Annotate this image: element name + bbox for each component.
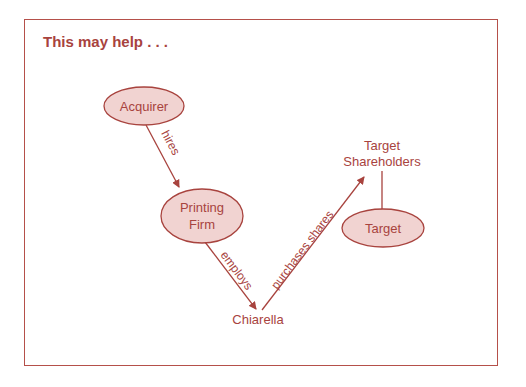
node-target: Target bbox=[342, 209, 424, 247]
node-printing-firm-label-2: Firm bbox=[189, 217, 215, 232]
node-acquirer-label: Acquirer bbox=[120, 99, 169, 114]
node-acquirer: Acquirer bbox=[104, 87, 184, 125]
node-printing-firm: Printing Firm bbox=[161, 189, 243, 243]
node-target-label: Target bbox=[365, 221, 402, 236]
diagram-canvas: hires employs purchases shares Acquirer … bbox=[0, 0, 526, 387]
label-purchases-shares: purchases shares bbox=[268, 208, 336, 292]
label-hires: hires bbox=[158, 128, 183, 158]
label-employs: employs bbox=[218, 248, 256, 292]
node-chiarella: Chiarella bbox=[232, 312, 284, 327]
node-target-shareholders: Target Shareholders bbox=[343, 138, 421, 169]
node-target-shareholders-label-2: Shareholders bbox=[343, 154, 421, 169]
node-target-shareholders-label-1: Target bbox=[364, 138, 401, 153]
node-printing-firm-label-1: Printing bbox=[180, 200, 224, 215]
